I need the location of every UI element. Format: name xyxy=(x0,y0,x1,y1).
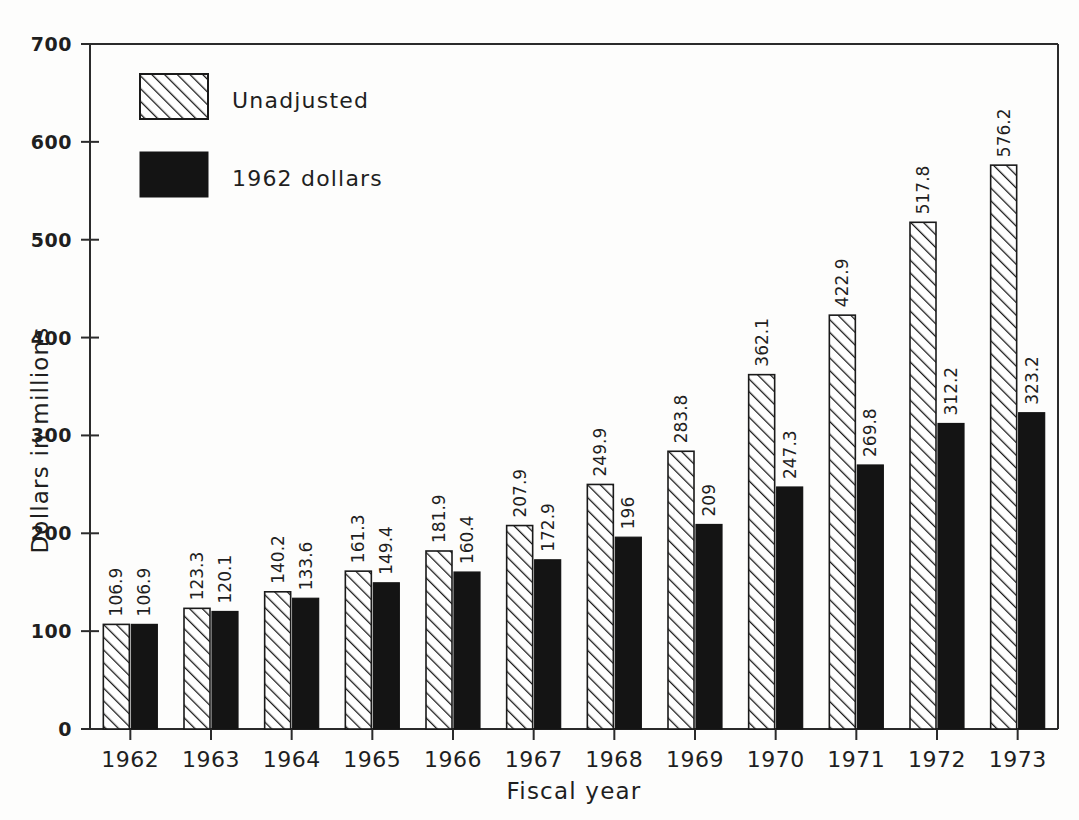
y-tick-label: 0 xyxy=(58,718,72,740)
bar-1962-dollars xyxy=(777,487,803,729)
bar-1962-dollars xyxy=(535,560,561,729)
bar-value-label-1962-dollars: 247.3 xyxy=(780,430,800,479)
bar-1962-dollars xyxy=(615,537,641,729)
y-tick-label: 600 xyxy=(31,131,72,153)
legend-swatch-1962-dollars xyxy=(140,152,208,197)
x-axis-tick-labels: 1962196319641965196619671968196919701971… xyxy=(101,747,1046,772)
bar-unadjusted xyxy=(426,551,452,729)
legend: Unadjusted 1962 dollars xyxy=(140,74,383,197)
bar-value-label-1962-dollars: 196 xyxy=(618,497,638,529)
bar-value-label-unadjusted: 249.9 xyxy=(590,428,610,477)
bar-unadjusted xyxy=(507,526,533,729)
bar-unadjusted xyxy=(345,571,371,729)
x-tick-label: 1964 xyxy=(263,747,321,772)
bar-1962-dollars xyxy=(454,572,480,729)
bar-unadjusted xyxy=(265,592,291,729)
x-tick-label: 1973 xyxy=(989,747,1047,772)
bar-value-label-unadjusted: 422.9 xyxy=(832,258,852,307)
bar-value-label-1962-dollars: 133.6 xyxy=(296,542,316,591)
legend-label-unadjusted: Unadjusted xyxy=(232,88,369,113)
bar-value-label-unadjusted: 161.3 xyxy=(348,514,368,563)
x-tick-label: 1965 xyxy=(343,747,401,772)
x-tick-label: 1967 xyxy=(505,747,563,772)
bar-value-label-unadjusted: 181.9 xyxy=(429,494,449,543)
x-tick-label: 1970 xyxy=(747,747,805,772)
bar-1962-dollars xyxy=(373,583,399,729)
bar-value-label-unadjusted: 140.2 xyxy=(268,535,288,584)
x-axis-ticks xyxy=(130,729,1017,740)
x-tick-label: 1972 xyxy=(908,747,966,772)
bar-value-label-1962-dollars: 269.8 xyxy=(860,408,880,457)
bar-value-label-unadjusted: 576.2 xyxy=(994,108,1014,157)
legend-swatch-unadjusted xyxy=(140,74,208,119)
bar-value-label-1962-dollars: 172.9 xyxy=(538,503,558,552)
x-tick-label: 1971 xyxy=(827,747,885,772)
bar-value-label-unadjusted: 207.9 xyxy=(510,469,530,518)
x-tick-label: 1969 xyxy=(666,747,724,772)
bar-unadjusted xyxy=(910,222,936,729)
y-tick-label: 100 xyxy=(31,620,72,642)
bar-unadjusted xyxy=(184,608,210,729)
bar-1962-dollars xyxy=(131,624,157,729)
bars-layer xyxy=(103,165,1044,729)
bar-value-label-1962-dollars: 323.2 xyxy=(1022,356,1042,405)
bar-1962-dollars xyxy=(857,465,883,729)
bar-unadjusted xyxy=(829,315,855,729)
y-tick-label: 500 xyxy=(31,229,72,251)
bar-1962-dollars xyxy=(212,611,238,729)
x-tick-label: 1963 xyxy=(182,747,240,772)
bar-unadjusted xyxy=(668,451,694,729)
bar-value-label-unadjusted: 517.8 xyxy=(913,166,933,215)
bar-value-label-1962-dollars: 312.2 xyxy=(941,367,961,416)
bar-value-label-unadjusted: 106.9 xyxy=(106,568,126,617)
bar-unadjusted xyxy=(587,484,613,729)
bar-1962-dollars xyxy=(938,423,964,729)
bar-value-label-unadjusted: 123.3 xyxy=(187,552,207,601)
bar-value-label-1962-dollars: 106.9 xyxy=(134,568,154,617)
bar-unadjusted xyxy=(103,624,129,729)
bar-value-label-unadjusted: 362.1 xyxy=(752,318,772,367)
x-tick-label: 1966 xyxy=(424,747,482,772)
legend-label-1962-dollars: 1962 dollars xyxy=(232,166,383,191)
bar-value-label-1962-dollars: 120.1 xyxy=(215,555,235,604)
chart-figure: 0100200300400500600700 106.9106.9123.312… xyxy=(0,0,1079,820)
bar-1962-dollars xyxy=(1019,413,1045,729)
bar-chart-svg: 0100200300400500600700 106.9106.9123.312… xyxy=(0,0,1079,820)
x-tick-label: 1962 xyxy=(101,747,159,772)
bar-value-label-unadjusted: 283.8 xyxy=(671,395,691,444)
bar-unadjusted xyxy=(991,165,1017,729)
bar-unadjusted xyxy=(749,375,775,729)
bar-value-label-1962-dollars: 160.4 xyxy=(457,515,477,564)
bar-1962-dollars xyxy=(293,598,319,729)
y-axis-title: Dollars in millions xyxy=(27,326,53,553)
y-tick-label: 700 xyxy=(31,33,72,55)
x-axis-title: Fiscal year xyxy=(507,778,642,804)
bar-1962-dollars xyxy=(696,524,722,729)
bar-value-label-1962-dollars: 209 xyxy=(699,484,719,516)
x-tick-label: 1968 xyxy=(585,747,643,772)
bar-value-label-1962-dollars: 149.4 xyxy=(376,526,396,575)
